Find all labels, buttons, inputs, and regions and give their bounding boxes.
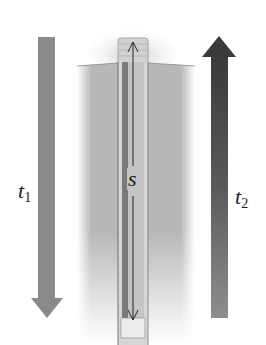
t2-label: t2: [235, 186, 248, 211]
s-label-base: s: [128, 166, 137, 191]
t1-label: t1: [18, 180, 31, 205]
t2-label-sub: 2: [241, 196, 248, 211]
well-diagram: t1 s t2: [0, 0, 266, 345]
t1-label-sub: 1: [24, 190, 31, 205]
t2-up-arrow: [202, 36, 236, 318]
s-label: s: [127, 168, 138, 190]
t1-down-arrow: [31, 37, 63, 318]
